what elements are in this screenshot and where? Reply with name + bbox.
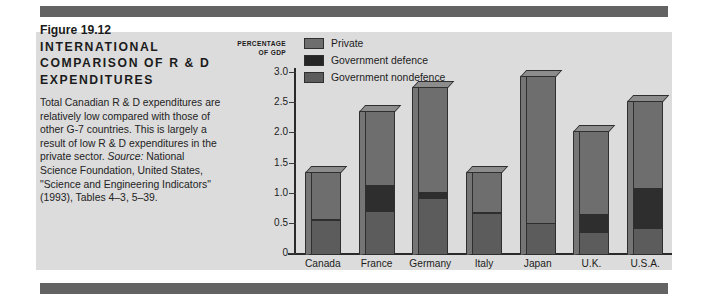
bar-top-face xyxy=(466,166,508,173)
legend-label-government-defence: Government defence xyxy=(331,55,428,66)
y-axis-title-line1: PERCENTAGE xyxy=(228,40,286,49)
plot-area xyxy=(296,68,672,255)
bar-segment-nondefence xyxy=(473,214,501,254)
bar-front-face xyxy=(472,172,502,255)
bar-front-face xyxy=(311,172,341,255)
figure-title: Figure 19.12 INTERNATIONAL COMPARISON OF… xyxy=(40,22,223,88)
y-axis-tick xyxy=(289,223,296,224)
bar-u-s-a xyxy=(627,95,663,255)
figure-page: Figure 19.12 INTERNATIONAL COMPARISON OF… xyxy=(0,0,708,300)
legend-swatch-defence-icon xyxy=(304,55,324,66)
x-axis-label-u-s-a: U.S.A. xyxy=(618,258,672,270)
bar-segment-nondefence xyxy=(312,221,340,254)
y-axis-tick-label: 3.0 xyxy=(244,67,288,77)
y-axis-tick xyxy=(289,163,296,164)
bar-top-face xyxy=(520,70,562,77)
bar-japan xyxy=(520,70,556,255)
x-axis-label-canada: Canada xyxy=(296,258,350,270)
bar-top-face xyxy=(627,95,669,102)
y-axis-tick xyxy=(289,253,296,254)
bottom-rule xyxy=(40,283,668,294)
bar-segment-defence xyxy=(580,214,608,233)
legend-label-private: Private xyxy=(331,38,363,49)
y-axis-tick xyxy=(289,193,296,194)
y-axis-tick-label: 0.5 xyxy=(244,218,288,228)
x-axis-label-u-k: U.K. xyxy=(565,258,619,270)
bar-top-face xyxy=(305,166,347,173)
bar-segment-private xyxy=(527,76,555,223)
bar-segment-nondefence xyxy=(634,229,662,254)
bar-segment-nondefence xyxy=(527,224,555,254)
x-axis-label-germany: Germany xyxy=(403,258,457,270)
source-label: Source: xyxy=(108,151,144,162)
bar-front-face xyxy=(579,131,609,255)
figure-headline: INTERNATIONAL COMPARISON OF R & D EXPEND… xyxy=(40,40,210,87)
bar-france xyxy=(359,105,395,255)
bar-segment-defence xyxy=(634,188,662,229)
y-axis-tick xyxy=(289,102,296,103)
y-axis-tick-label: 1.5 xyxy=(244,158,288,168)
y-axis-tick xyxy=(289,72,296,73)
figure-caption: Figure 19.12 INTERNATIONAL COMPARISON OF… xyxy=(40,22,223,205)
y-axis-title-line2: OF GDP xyxy=(228,49,286,58)
x-axis-label-japan: Japan xyxy=(511,258,565,270)
legend-swatch-private-icon xyxy=(304,38,324,49)
figure-number: Figure 19.12 xyxy=(40,23,111,37)
y-axis-tick xyxy=(289,132,296,133)
x-axis-label-italy: Italy xyxy=(457,258,511,270)
figure-body-text: Total Canadian R & D expenditures are re… xyxy=(40,96,223,205)
bar-segment-nondefence xyxy=(419,199,447,255)
bar-chart: PERCENTAGE OF GDP Private Government def… xyxy=(228,34,672,270)
bar-segment-private xyxy=(473,172,501,211)
y-axis-tick-label: 2.0 xyxy=(244,127,288,137)
y-axis-tick-label: 0 xyxy=(244,248,288,258)
y-axis-tick-label: 1.0 xyxy=(244,188,288,198)
bar-top-face xyxy=(359,105,401,112)
legend-item-government-defence: Government defence xyxy=(304,53,445,68)
bar-italy xyxy=(466,166,502,255)
bar-germany xyxy=(412,81,448,255)
bar-top-face xyxy=(412,81,454,88)
bar-u-k xyxy=(573,125,609,255)
bar-segment-defence xyxy=(527,223,555,224)
bar-canada xyxy=(305,166,341,255)
bar-segment-nondefence xyxy=(366,212,394,254)
y-axis-title: PERCENTAGE OF GDP xyxy=(228,40,286,57)
bar-segment-private xyxy=(580,131,608,213)
bar-segment-private xyxy=(312,172,340,219)
bar-segment-private xyxy=(419,87,447,192)
bar-top-face xyxy=(573,125,615,132)
top-rule xyxy=(40,6,668,17)
bar-segment-defence xyxy=(366,185,394,212)
bar-segment-defence xyxy=(419,192,447,199)
bar-segment-private xyxy=(634,101,662,187)
bar-segment-private xyxy=(366,111,394,184)
bar-segment-nondefence xyxy=(580,233,608,254)
bar-front-face xyxy=(633,101,663,255)
bar-front-face xyxy=(526,76,556,255)
legend-item-private: Private xyxy=(304,36,445,51)
bar-segment-defence xyxy=(312,219,340,221)
bar-front-face xyxy=(418,87,448,255)
bar-segment-defence xyxy=(473,212,501,214)
bar-front-face xyxy=(365,111,395,255)
x-axis-label-france: France xyxy=(350,258,404,270)
y-axis-tick-label: 2.5 xyxy=(244,97,288,107)
